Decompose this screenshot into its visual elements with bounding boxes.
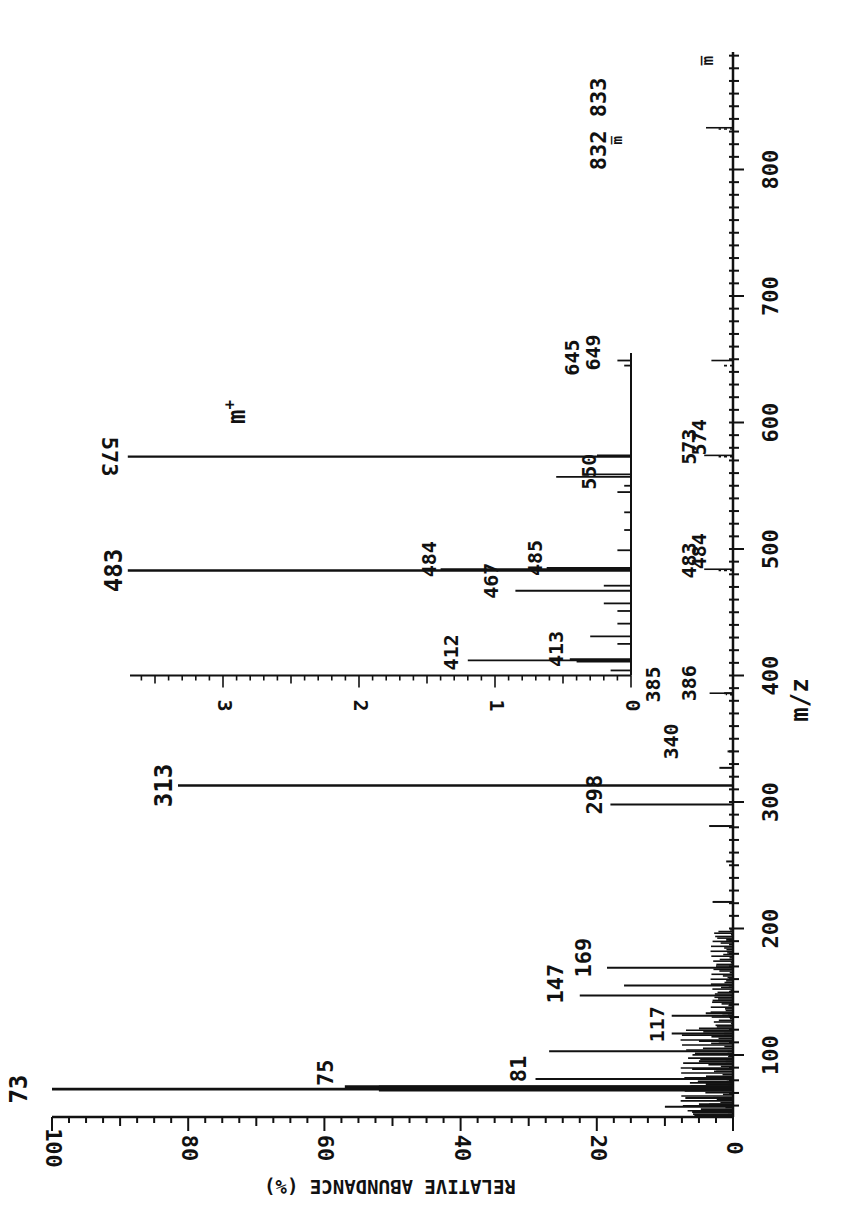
x-tick-label: 300 (758, 782, 783, 822)
peak-label-313: 313 (150, 764, 178, 807)
x-tick-label: 600 (758, 403, 783, 443)
inset-peaks (128, 361, 631, 671)
peak-label-298: 298 (582, 775, 607, 815)
y-tick-label: 20 (586, 1135, 611, 1162)
x-axis-label: m/z (786, 678, 814, 721)
y-tick-label: 40 (450, 1135, 475, 1162)
peak-label-550: 550 (577, 454, 601, 490)
peak-label-81: 81 (506, 1056, 531, 1083)
peak-label-467: 467 (479, 563, 503, 599)
main-axes: 100200300400500600700800020406080100 (41, 52, 783, 1168)
peak-label-483: 483 (100, 549, 128, 592)
x-tick-label: 800 (758, 150, 783, 190)
x-tick-label: 500 (758, 529, 783, 569)
y-tick-label: 80 (177, 1135, 202, 1162)
inset-y-tick-label: 3 (213, 699, 237, 711)
peak-label-385: 385 (641, 666, 665, 702)
mass-spectrum-chart: 100200300400500600700800020406080100 012… (0, 0, 850, 1230)
inset-y-tick-label: 1 (485, 699, 509, 711)
peak-label-484: 484 (687, 533, 711, 569)
x-tick-label: 700 (758, 276, 783, 316)
m832-label: m̅ (609, 136, 625, 145)
y-axis-label: RELATIVE ABUNDANCE (%) (264, 1176, 516, 1198)
mplus-label: m+ (220, 400, 251, 424)
x-tick-label: 100 (758, 1035, 783, 1075)
peak-label-832-833: 832 833 (586, 78, 611, 171)
peak-label-412: 412 (439, 634, 463, 670)
peak-label-574: 574 (687, 419, 711, 455)
peak-label-485: 485 (523, 540, 547, 576)
peak-label-169: 169 (571, 938, 596, 978)
y-tick-label: 60 (313, 1135, 338, 1162)
peak-labels: 7375811171471692983133403853864834845735… (5, 56, 717, 1104)
peak-label-73: 73 (5, 1075, 33, 1104)
peak-label-386: 386 (677, 665, 701, 701)
top-m-label: m̅ (698, 56, 717, 66)
inset-y-tick-label: 2 (349, 699, 373, 711)
x-tick-label: 400 (758, 656, 783, 696)
x-tick-label: 200 (758, 909, 783, 949)
y-tick-label: 100 (41, 1128, 66, 1168)
peak-label-117: 117 (645, 1006, 669, 1042)
peak-label-484: 484 (417, 541, 441, 577)
peak-label-147: 147 (543, 964, 568, 1004)
peak-label-340: 340 (659, 723, 683, 759)
y-tick-label: 0 (722, 1141, 747, 1154)
peak-label-75: 75 (313, 1059, 338, 1086)
peak-label-413: 413 (544, 631, 568, 667)
peak-label-573: 573 (97, 437, 122, 477)
peak-label-649: 649 (581, 334, 605, 370)
